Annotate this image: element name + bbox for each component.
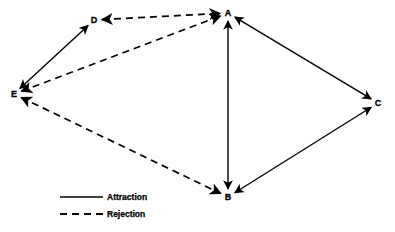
edge-b-c: [235, 107, 371, 193]
edge-d-a: [102, 13, 220, 19]
graph-svg: [0, 0, 395, 232]
node-label-e: E: [11, 90, 17, 99]
diagram-canvas: ABCDE AttractionRejection: [0, 0, 395, 232]
legend-lines-layer: [60, 197, 103, 214]
edge-d-e: [20, 25, 88, 88]
node-label-d: D: [91, 16, 98, 25]
edge-e-a: [21, 16, 220, 91]
edge-e-b: [21, 97, 221, 193]
edges-layer: [20, 13, 371, 193]
legend-label-attraction: Attraction: [107, 192, 147, 202]
legend-label-rejection: Rejection: [107, 209, 145, 219]
node-label-c: C: [375, 99, 382, 108]
edge-a-c: [235, 17, 371, 99]
node-label-b: B: [225, 193, 232, 202]
node-label-a: A: [225, 9, 232, 18]
